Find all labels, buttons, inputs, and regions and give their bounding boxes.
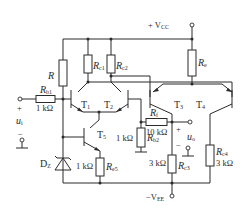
label-Rc2: Rc2: [115, 60, 128, 71]
label-Dz: DZ: [40, 158, 51, 169]
label-T4: T4: [196, 99, 205, 110]
resistor-Re: [188, 50, 196, 76]
resistor-Rf: [146, 119, 167, 126]
label-Re5: Re5: [105, 161, 118, 172]
output-label: uo: [187, 131, 195, 142]
input-minus-sign: −: [18, 129, 23, 139]
labels: + VCC −VEE R Rb1 1 kΩ Rc1 Rc2 Re Re5 1 k…: [16, 20, 233, 202]
label-T3: T3: [174, 99, 183, 110]
label-Re: Re: [197, 57, 207, 68]
value-Rb2: 1 kΩ: [116, 133, 133, 143]
value-Re5: 1 kΩ: [76, 161, 93, 171]
input-terminal-plus: [18, 97, 22, 101]
label-Rc4: Rc4: [215, 146, 228, 157]
vcc-label: + VCC: [148, 20, 169, 30]
output-minus-sign: −: [176, 140, 181, 150]
label-T2: T2: [104, 99, 113, 110]
resistor-Rc3: [168, 155, 176, 173]
label-T5: T5: [97, 129, 106, 140]
input-label: ui: [16, 115, 23, 126]
output-terminal-plus: [188, 120, 192, 124]
resistor-Rc1: [84, 55, 92, 73]
output-plus-sign: +: [176, 124, 181, 134]
resistor-Rc4: [206, 145, 214, 166]
t3-emitter-arrow-icon: [153, 88, 159, 92]
output-terminal-minus: [186, 146, 190, 150]
vee-terminal: [170, 194, 174, 198]
label-Rf: Rf: [149, 107, 158, 118]
vcc-terminal: [190, 23, 194, 27]
value-Rb1: 1 kΩ: [36, 103, 53, 113]
label-R: R: [47, 70, 54, 81]
t4-emitter-arrow-icon: [226, 88, 232, 92]
input-plus-sign: +: [17, 103, 22, 113]
vee-label: −VEE: [146, 192, 165, 202]
resistor-Rc2: [107, 55, 115, 73]
label-T1: T1: [81, 99, 90, 110]
resistor-Rb2: [137, 128, 145, 147]
label-Rc3: Rc3: [177, 160, 190, 171]
resistor-R: [59, 60, 67, 86]
value-Rf: 10 kΩ: [146, 127, 167, 137]
resistor-Rb1: [36, 96, 55, 103]
label-Rb1: Rb1: [39, 84, 52, 95]
value-Rc3: 3 kΩ: [149, 158, 166, 168]
label-Rc1: Rc1: [92, 60, 105, 71]
value-Rc4: 3 kΩ: [216, 158, 233, 168]
circuit-schematic: + VCC −VEE R Rb1 1 kΩ Rc1 Rc2 Re Re5 1 k…: [0, 0, 247, 216]
resistor-Re5: [96, 158, 104, 176]
